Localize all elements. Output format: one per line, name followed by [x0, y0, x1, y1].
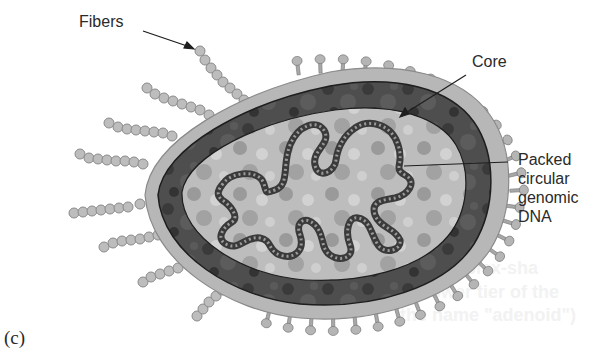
fiber-chain [69, 199, 145, 218]
fiber-chain [142, 83, 214, 120]
label-core: Core [472, 52, 507, 71]
virus-diagram [0, 0, 604, 353]
spike [292, 56, 304, 76]
label-dna-line-3: genomic [518, 188, 578, 207]
spike [328, 317, 338, 336]
label-dna-line-4: DNA [518, 207, 578, 226]
spike [315, 55, 326, 74]
label-fibers: Fibers [79, 12, 123, 31]
label-dna-line-1: Packed [518, 150, 578, 169]
panel-label: (c) [4, 327, 25, 349]
fiber-chain [195, 46, 249, 105]
label-packed-dna: Packed circular genomic DNA [518, 150, 578, 226]
fiber-chain [75, 149, 148, 169]
fiber-chain [104, 118, 177, 141]
fibers-arrow [143, 31, 190, 47]
label-dna-line-2: circular [518, 169, 578, 188]
